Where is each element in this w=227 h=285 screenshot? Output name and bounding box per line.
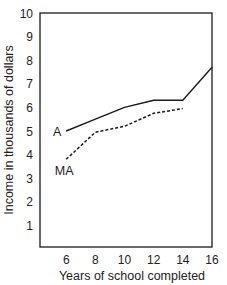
y-tick-label: 8	[26, 54, 33, 68]
y-tick-label: 4	[26, 148, 33, 162]
y-tick-label: 7	[26, 77, 33, 91]
y-tick-label: 5	[26, 125, 33, 139]
series-line-ma	[66, 109, 183, 160]
y-tick-label: 3	[26, 172, 33, 186]
x-tick-label: 8	[92, 253, 99, 267]
x-tick-label: 10	[118, 253, 132, 267]
series-label-ma: MA	[55, 164, 74, 178]
series-label-a: A	[53, 125, 62, 139]
series-line-a	[66, 67, 212, 131]
x-tick-label: 14	[176, 253, 190, 267]
x-axis-title: Years of school completed	[59, 269, 205, 283]
y-tick-label: 6	[26, 101, 33, 115]
plot-border	[40, 13, 212, 247]
x-tick-label: 16	[205, 253, 219, 267]
y-axis-ticks: 12345678910	[20, 7, 34, 233]
y-axis-title: Income in thousands of dollars	[2, 45, 16, 215]
x-axis-ticks: 6810121416	[63, 253, 219, 267]
y-tick-label: 2	[26, 195, 33, 209]
y-tick-label: 1	[26, 219, 33, 233]
y-tick-label: 10	[20, 7, 34, 21]
x-tick-label: 6	[63, 253, 70, 267]
series-lines	[66, 67, 212, 159]
y-tick-label: 9	[26, 30, 33, 44]
x-tick-label: 12	[147, 253, 161, 267]
series-labels: AMA	[53, 125, 74, 179]
plot-frame	[40, 13, 212, 247]
line-chart: 12345678910 6810121416 AMA Years of scho…	[0, 0, 227, 285]
